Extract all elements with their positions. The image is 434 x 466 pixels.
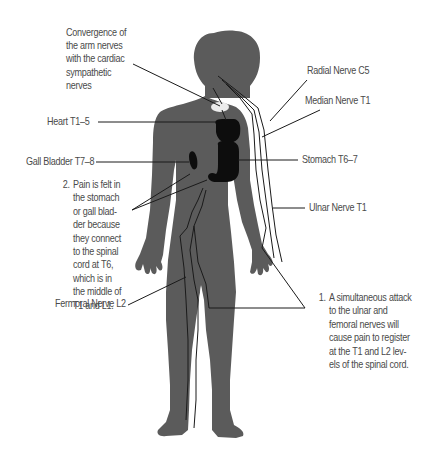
stomach-label: Stomach T6–7 <box>302 153 357 167</box>
referred-pain-diagram: Convergence of the arm nerves with the c… <box>0 0 434 466</box>
note-1: 1. A simultaneous attack to the ulnar an… <box>329 291 411 371</box>
gall-bladder-label: Gall Bladder T7–8 <box>26 155 94 169</box>
radial-nerve-label: Radial Nerve C5 <box>307 64 369 78</box>
heart-label: Heart T1–5 <box>47 115 89 129</box>
median-nerve-label: Median Nerve T1 <box>305 94 370 108</box>
ulnar-nerve-label: Ulnar Nerve T1 <box>309 201 366 215</box>
note-2: 2. Pain is felt in the stomach or gall b… <box>73 178 121 312</box>
body-silhouette <box>135 31 273 438</box>
convergence-label: Convergence of the arm nerves with the c… <box>66 26 126 92</box>
